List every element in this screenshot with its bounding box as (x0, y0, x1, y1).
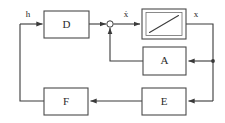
wire-F-to-input (20, 24, 44, 101)
summing-junction (107, 21, 113, 27)
block-diagram-canvas: D A E F h ẋ x (0, 0, 225, 123)
signal-label-x: x (194, 9, 199, 19)
branch-node-dot (211, 59, 215, 63)
wire-A-to-sum (110, 28, 143, 61)
block-diagram-svg: D A E F h ẋ x (0, 0, 225, 123)
signal-label-xdot: ẋ (124, 9, 129, 19)
block-E-label: E (161, 95, 168, 107)
wire-integrator-to-branch (186, 24, 213, 61)
block-D-label: D (63, 18, 71, 30)
signal-label-h: h (26, 9, 31, 19)
block-A-label: A (161, 54, 169, 66)
block-F-label: F (63, 95, 69, 107)
